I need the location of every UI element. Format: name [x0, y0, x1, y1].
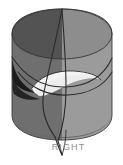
cylinder-illustration: [0, 0, 123, 165]
figure-container: RIGHT: [0, 0, 123, 165]
figure-caption: RIGHT: [0, 142, 123, 152]
